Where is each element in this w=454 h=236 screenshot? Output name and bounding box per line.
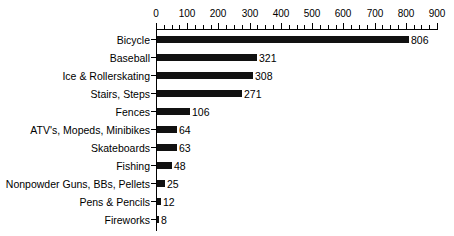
bar-row: ATV's, Mopeds, Minibikes64 xyxy=(0,121,454,139)
bar-row: Fences106 xyxy=(0,103,454,121)
bar-value-label: 106 xyxy=(192,106,210,118)
bar xyxy=(157,54,257,61)
bar-row: Bicycle806 xyxy=(0,31,454,49)
bar-value-label: 25 xyxy=(167,178,179,190)
bar xyxy=(157,162,172,169)
y-axis-tick xyxy=(151,219,156,220)
category-label: Pens & Pencils xyxy=(79,196,150,208)
y-axis-tick xyxy=(151,39,156,40)
bar-row: Ice & Rollerskating308 xyxy=(0,67,454,85)
category-label: Fireworks xyxy=(104,214,150,226)
bar-rows: Bicycle806Baseball321Ice & Rollerskating… xyxy=(0,0,454,236)
bar-value-label: 806 xyxy=(411,34,429,46)
y-axis-tick xyxy=(151,201,156,202)
bar-row: Skateboards63 xyxy=(0,139,454,157)
bar xyxy=(157,108,190,115)
bar-row: Baseball321 xyxy=(0,49,454,67)
bar xyxy=(157,216,159,223)
bar xyxy=(157,36,409,43)
bar-row: Pens & Pencils12 xyxy=(0,193,454,211)
bar-value-label: 308 xyxy=(255,70,273,82)
category-label: Fences xyxy=(116,106,150,118)
bar-value-label: 8 xyxy=(161,214,167,226)
bar xyxy=(157,144,177,151)
category-label: Stairs, Steps xyxy=(90,88,150,100)
y-axis-tick xyxy=(151,111,156,112)
category-label: Bicycle xyxy=(117,34,150,46)
bar-value-label: 12 xyxy=(163,196,175,208)
bar xyxy=(157,198,161,205)
category-label: Skateboards xyxy=(91,142,150,154)
y-axis-tick xyxy=(151,75,156,76)
category-label: Nonpowder Guns, BBs, Pellets xyxy=(6,178,150,190)
bar-value-label: 63 xyxy=(179,142,191,154)
category-label: Ice & Rollerskating xyxy=(62,70,150,82)
bar-chart: 0100200300400500600700800900 Bicycle806B… xyxy=(0,0,454,236)
bar-row: Stairs, Steps271 xyxy=(0,85,454,103)
y-axis-tick xyxy=(151,57,156,58)
bar-row: Fireworks8 xyxy=(0,211,454,229)
category-label: Baseball xyxy=(110,52,150,64)
bar-row: Nonpowder Guns, BBs, Pellets25 xyxy=(0,175,454,193)
y-axis-tick xyxy=(151,147,156,148)
bar xyxy=(157,90,242,97)
category-label: ATV's, Mopeds, Minibikes xyxy=(30,124,150,136)
bar-value-label: 271 xyxy=(244,88,262,100)
y-axis-tick xyxy=(151,165,156,166)
y-axis-tick xyxy=(151,183,156,184)
bar xyxy=(157,72,253,79)
y-axis-tick xyxy=(151,93,156,94)
category-label: Fishing xyxy=(116,160,150,172)
bar-value-label: 64 xyxy=(179,124,191,136)
bar xyxy=(157,126,177,133)
bar-value-label: 321 xyxy=(259,52,277,64)
bar-row: Fishing48 xyxy=(0,157,454,175)
bar-value-label: 48 xyxy=(174,160,186,172)
bar xyxy=(157,180,165,187)
y-axis-tick xyxy=(151,129,156,130)
